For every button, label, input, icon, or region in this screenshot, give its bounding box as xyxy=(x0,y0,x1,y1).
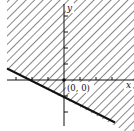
origin-label: (0, 0) xyxy=(67,83,90,93)
shaded-region xyxy=(7,0,134,131)
x-axis-label: x xyxy=(126,80,131,90)
origin-point xyxy=(62,78,66,82)
inequality-graph: y x (0, 0) xyxy=(0,0,134,131)
y-axis-label: y xyxy=(66,3,73,13)
